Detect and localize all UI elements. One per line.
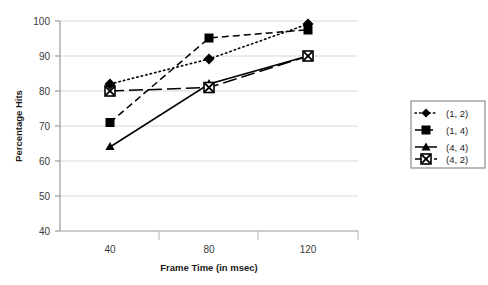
legend-label-4-4: (4, 4) (446, 142, 468, 153)
y-axis-title: Percentage Hits (13, 90, 24, 162)
legend-label-4-2: (4, 2) (446, 154, 468, 165)
data-point-marker-square (106, 118, 115, 127)
y-tick-label: 90 (39, 51, 51, 62)
legend-marker-square-icon (422, 126, 431, 135)
legend: (1, 2) (1, 4) (4, 4) (4, 2) (411, 101, 485, 168)
x-tick-label: 80 (203, 244, 215, 255)
data-point-marker-square (205, 34, 214, 43)
x-tick-label: 40 (104, 244, 116, 255)
x-tick-label: 120 (300, 244, 317, 255)
x-axis-title: Frame Time (in msec) (160, 262, 258, 273)
legend-label-1-4: (1, 4) (446, 125, 468, 136)
y-tick-label: 100 (33, 16, 50, 27)
data-point-marker-square-x (303, 51, 313, 61)
legend-label-1-2: (1, 2) (446, 108, 468, 119)
percentage-hits-line-chart: 100 90 80 70 60 50 40 40 80 120 Frame Ti… (0, 0, 488, 285)
y-tick-label: 50 (39, 191, 51, 202)
y-tick-label: 70 (39, 121, 51, 132)
y-tick-label: 60 (39, 156, 51, 167)
y-tick-label: 40 (39, 226, 51, 237)
data-point-marker-square-x (204, 83, 214, 93)
y-tick-label: 80 (39, 86, 51, 97)
